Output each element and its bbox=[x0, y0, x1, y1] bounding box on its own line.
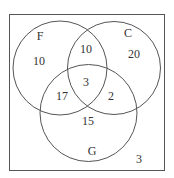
region-f-c-g: 3 bbox=[83, 75, 89, 89]
set-label-f: F bbox=[37, 29, 44, 43]
venn-diagram: F C G 10 20 10 3 17 2 15 3 bbox=[0, 0, 174, 178]
region-f-and-c: 10 bbox=[80, 42, 92, 56]
region-g-only: 15 bbox=[82, 114, 94, 128]
region-c-only: 20 bbox=[128, 47, 140, 61]
region-c-and-g: 2 bbox=[108, 89, 114, 103]
region-f-and-g: 17 bbox=[56, 89, 68, 103]
region-outside: 3 bbox=[136, 152, 142, 166]
set-label-c: C bbox=[124, 26, 132, 40]
region-f-only: 10 bbox=[33, 54, 45, 68]
set-label-g: G bbox=[88, 144, 97, 158]
